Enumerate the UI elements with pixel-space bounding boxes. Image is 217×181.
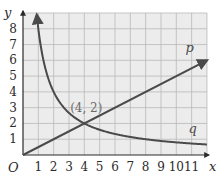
y-tick-labels: 12345678 xyxy=(9,22,17,146)
y-tick-label: 2 xyxy=(9,116,17,130)
intersection-label: (4, 2) xyxy=(70,101,102,115)
x-tick-labels: 1234567891011 xyxy=(35,160,200,174)
x-tick-label: 8 xyxy=(142,160,150,174)
y-tick-label: 4 xyxy=(9,85,17,99)
y-tick-label: 1 xyxy=(9,132,17,146)
x-tick-label: 2 xyxy=(50,160,58,174)
x-tick-label: 3 xyxy=(65,160,73,174)
x-tick-label: 1 xyxy=(35,160,43,174)
x-tick-label: 5 xyxy=(96,160,104,174)
x-tick-label: 9 xyxy=(157,160,165,174)
x-tick-label: 6 xyxy=(111,160,119,174)
y-tick-label: 6 xyxy=(9,53,17,67)
series-q-label: q xyxy=(189,121,197,136)
x-tick-label: 7 xyxy=(126,160,134,174)
x-tick-label: 4 xyxy=(80,160,88,174)
series-p-label: p xyxy=(185,40,194,55)
x-tick-label: 11 xyxy=(184,160,199,174)
x-axis-label: x xyxy=(209,159,217,174)
origin-label: O xyxy=(8,160,19,175)
y-axis-label: y xyxy=(3,5,12,20)
x-tick-label: 10 xyxy=(169,160,184,174)
y-tick-label: 3 xyxy=(9,101,17,115)
y-tick-label: 5 xyxy=(9,69,17,83)
y-tick-label: 8 xyxy=(9,22,17,36)
graph: 1234567891011 12345678 yxOpq(4, 2) xyxy=(0,0,217,181)
y-tick-label: 7 xyxy=(9,38,17,52)
